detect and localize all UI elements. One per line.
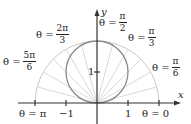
- fraction: 2π 3: [56, 24, 70, 45]
- angle-label-2pi-over-3: θ = 2π 3: [36, 24, 69, 45]
- x-axis-label: x: [178, 90, 184, 100]
- label-minus-one: −1: [59, 109, 74, 119]
- angle-prefix: θ =: [99, 18, 117, 28]
- denominator: 3: [149, 38, 155, 48]
- label-theta-pi: θ = π: [19, 109, 46, 119]
- denominator: 6: [173, 68, 179, 78]
- denominator: 6: [27, 62, 33, 72]
- numerator: π: [172, 57, 180, 68]
- angle-prefix: θ =: [3, 57, 21, 67]
- numerator: π: [119, 12, 127, 23]
- angle-prefix: θ =: [36, 30, 54, 40]
- numerator: 5π: [23, 51, 37, 62]
- x-axis-arrow-icon: [174, 101, 181, 106]
- label-theta-zero: θ = 0: [142, 109, 169, 119]
- numerator: 2π: [56, 24, 70, 35]
- fraction: π 6: [172, 57, 180, 78]
- numerator: π: [148, 27, 156, 38]
- fraction: π 3: [148, 27, 156, 48]
- fraction: π 2: [119, 12, 127, 33]
- label-one: 1: [125, 109, 131, 119]
- angle-label-pi-over-6: θ = π 6: [152, 57, 180, 78]
- fraction: 5π 6: [23, 51, 37, 72]
- angle-prefix: θ =: [128, 33, 146, 43]
- angle-label-pi-over-2: θ = π 2: [99, 12, 127, 33]
- angle-prefix: θ =: [152, 63, 170, 73]
- denominator: 2: [120, 23, 126, 33]
- denominator: 3: [60, 35, 66, 45]
- y-tick-label-1: 1: [88, 67, 94, 77]
- angle-label-pi-over-3: θ = π 3: [128, 27, 156, 48]
- angle-label-5pi-over-6: θ = 5π 6: [3, 51, 36, 72]
